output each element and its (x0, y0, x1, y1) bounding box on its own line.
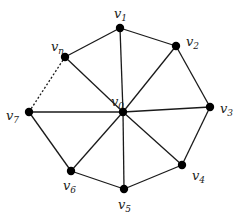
node-v3 (206, 103, 214, 111)
node-v4 (178, 161, 186, 169)
edge-v1-v2 (120, 28, 176, 46)
edge-v0-v4 (123, 112, 182, 165)
node-label-v7: v7 (6, 108, 19, 125)
edge-v0-v5 (123, 112, 124, 189)
node-label-v3: v3 (220, 101, 233, 118)
node-label-v6: v6 (63, 178, 76, 195)
edge-v0-v2 (123, 46, 176, 112)
edge-v0-v1 (120, 28, 123, 112)
edge-v6-v7 (29, 112, 71, 171)
wheel-graph-diagram: v0v1v2v3v4v5v6v7vn (0, 0, 245, 221)
edge-vn-v1 (65, 28, 120, 57)
node-label-vn: vn (51, 39, 64, 56)
node-v2 (172, 42, 180, 50)
node-v7 (25, 108, 33, 116)
edge-v2-v3 (176, 46, 210, 107)
edge-v4-v5 (124, 165, 182, 189)
node-label-v1: v1 (114, 6, 127, 23)
edge-v3-v4 (182, 107, 210, 165)
node-v6 (67, 167, 75, 175)
edge-v0-v3 (123, 107, 210, 112)
node-v5 (120, 185, 128, 193)
node-label-v5: v5 (118, 197, 131, 214)
edge-v0-v6 (71, 112, 123, 171)
node-v1 (116, 24, 124, 32)
edge-v7-vn (29, 57, 65, 112)
node-label-v4: v4 (192, 168, 205, 185)
node-label-v2: v2 (186, 34, 199, 51)
edge-v5-v6 (71, 171, 124, 189)
